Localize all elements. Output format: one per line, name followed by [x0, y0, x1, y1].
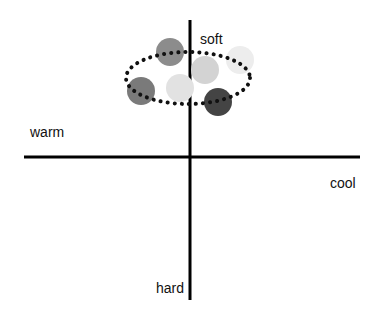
positioning-map: [0, 0, 378, 320]
diagram-canvas: soft warm cool hard: [0, 0, 378, 320]
circle-pale-gray: [166, 74, 194, 102]
axis-label-cool: cool: [330, 176, 356, 190]
axis-label-soft: soft: [200, 32, 223, 46]
axis-label-hard: hard: [156, 281, 184, 295]
circle-very-light-gray: [226, 46, 254, 74]
axis-label-warm: warm: [30, 125, 64, 139]
circle-dark-gray-left: [127, 77, 155, 105]
circle-light-gray: [191, 56, 219, 84]
